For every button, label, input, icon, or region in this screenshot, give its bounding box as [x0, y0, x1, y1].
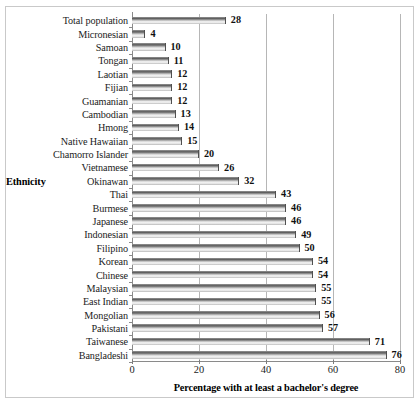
bar-row[interactable]: 13	[132, 108, 400, 121]
category-axis-labels: Total populationMicronesianSamoanTonganL…	[8, 14, 128, 362]
category-label: Chinese	[8, 270, 128, 281]
bar-value-label: 57	[328, 322, 338, 333]
bar-chart-figure: Ethnicity Total populationMicronesianSam…	[0, 0, 420, 410]
bar-value-label: 55	[321, 295, 331, 306]
category-label: East Indian	[8, 296, 128, 307]
bar[interactable]	[132, 258, 313, 266]
bar-row[interactable]: 14	[132, 121, 400, 134]
bar-value-label: 46	[291, 202, 301, 213]
bar-row[interactable]: 55	[132, 295, 400, 308]
bar-row[interactable]: 56	[132, 308, 400, 321]
bar[interactable]	[132, 97, 172, 105]
category-label: Taiwanese	[8, 336, 128, 347]
category-label: Malaysian	[8, 283, 128, 294]
bar[interactable]	[132, 311, 320, 319]
bar[interactable]	[132, 324, 323, 332]
category-label: Okinawan	[8, 176, 128, 187]
bar-row[interactable]: 43	[132, 188, 400, 201]
category-label: Filipino	[8, 243, 128, 254]
bar[interactable]	[132, 17, 226, 25]
bar-row[interactable]: 12	[132, 81, 400, 94]
category-label: Laotian	[8, 69, 128, 80]
bar-row[interactable]: 46	[132, 201, 400, 214]
bar-row[interactable]: 12	[132, 68, 400, 81]
x-tick-label: 60	[328, 364, 338, 375]
bar-value-label: 43	[281, 188, 291, 199]
category-label: Vietnamese	[8, 162, 128, 173]
bar-value-label: 12	[177, 95, 187, 106]
bar-value-label: 54	[318, 255, 328, 266]
bar-row[interactable]: 20	[132, 148, 400, 161]
category-label: Hmong	[8, 122, 128, 133]
bar-value-label: 15	[187, 135, 197, 146]
category-label: Native Hawaiian	[8, 136, 128, 147]
bar-row[interactable]: 71	[132, 335, 400, 348]
bar[interactable]	[132, 244, 300, 252]
bar[interactable]	[132, 110, 176, 118]
x-axis-tick-labels: 020406080	[132, 364, 412, 380]
category-label: Fijian	[8, 82, 128, 93]
bar-value-label: 4	[150, 28, 155, 39]
bar-value-label: 10	[171, 41, 181, 52]
bar[interactable]	[132, 231, 296, 239]
bar[interactable]	[132, 164, 219, 172]
bar-row[interactable]: 55	[132, 282, 400, 295]
bar[interactable]	[132, 43, 166, 51]
category-label: Samoan	[8, 42, 128, 53]
bar[interactable]	[132, 70, 172, 78]
bar-row[interactable]: 28	[132, 14, 400, 27]
bar[interactable]	[132, 177, 239, 185]
category-label: Tongan	[8, 55, 128, 66]
bar[interactable]	[132, 338, 370, 346]
bar-row[interactable]: 54	[132, 268, 400, 281]
bar-value-label: 14	[184, 121, 194, 132]
bar-value-label: 55	[321, 282, 331, 293]
x-tick-label: 20	[194, 364, 204, 375]
bar[interactable]	[132, 191, 276, 199]
bar-row[interactable]: 4	[132, 27, 400, 40]
bar-value-label: 49	[301, 229, 311, 240]
bar[interactable]	[132, 284, 316, 292]
bar-row[interactable]: 57	[132, 322, 400, 335]
bar-row[interactable]: 15	[132, 134, 400, 147]
bar-value-label: 32	[244, 175, 254, 186]
bar-value-label: 11	[174, 55, 184, 66]
category-label: Japanese	[8, 216, 128, 227]
bar[interactable]	[132, 298, 316, 306]
bar[interactable]	[132, 204, 286, 212]
bar-row[interactable]: 11	[132, 54, 400, 67]
plot-area: 2841011121212131415202632434646495054545…	[132, 14, 400, 362]
bar[interactable]	[132, 57, 169, 65]
bar-row[interactable]: 12	[132, 94, 400, 107]
category-label: Micronesian	[8, 29, 128, 40]
bar-value-label: 50	[305, 242, 315, 253]
x-tick-label: 80	[395, 364, 405, 375]
x-axis-title: Percentage with at least a bachelor's de…	[132, 382, 400, 393]
gridline	[400, 14, 401, 362]
bar-row[interactable]: 76	[132, 349, 400, 362]
bar-row[interactable]: 49	[132, 228, 400, 241]
category-label: Burmese	[8, 203, 128, 214]
bar-row[interactable]: 26	[132, 161, 400, 174]
bar-row[interactable]: 50	[132, 242, 400, 255]
bar-value-label: 71	[375, 336, 385, 347]
bar[interactable]	[132, 351, 387, 359]
bar-row[interactable]: 32	[132, 175, 400, 188]
bar-value-label: 54	[318, 269, 328, 280]
category-label: Total population	[8, 15, 128, 26]
bar[interactable]	[132, 217, 286, 225]
bar[interactable]	[132, 30, 145, 38]
bar[interactable]	[132, 150, 199, 158]
bar-row[interactable]: 54	[132, 255, 400, 268]
bar-value-label: 20	[204, 148, 214, 159]
category-label: Chamorro Islander	[8, 149, 128, 160]
bar-row[interactable]: 10	[132, 41, 400, 54]
category-label: Indonesian	[8, 229, 128, 240]
category-label: Cambodian	[8, 109, 128, 120]
bar-value-label: 56	[325, 309, 335, 320]
bar[interactable]	[132, 84, 172, 92]
bar-row[interactable]: 46	[132, 215, 400, 228]
bar[interactable]	[132, 124, 179, 132]
bar[interactable]	[132, 137, 182, 145]
bar[interactable]	[132, 271, 313, 279]
